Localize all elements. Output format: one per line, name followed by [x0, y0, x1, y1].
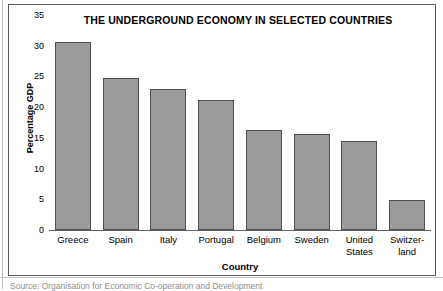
y-axis-tick-label: 35 — [22, 11, 44, 20]
x-axis-category-label: Belgium — [240, 234, 288, 246]
x-axis-title: Country — [49, 261, 431, 272]
page-edge-rule-left — [2, 0, 3, 289]
x-axis-category-label-line: United — [336, 234, 384, 246]
x-axis-category-label-line: Spain — [97, 234, 145, 246]
x-axis-category-label-line: Greece — [49, 234, 97, 246]
x-axis-category-label-line: Sweden — [288, 234, 336, 246]
bar-slot — [389, 15, 425, 230]
bar-slot — [103, 15, 139, 230]
x-axis-category-label-line: States — [336, 246, 384, 258]
y-axis-tick-label: 15 — [22, 133, 44, 142]
bar-slot — [55, 15, 91, 230]
y-axis-tick-label: 20 — [22, 103, 44, 112]
x-axis-category-label: Switzer-land — [383, 234, 431, 257]
y-axis-tick-label: 5 — [22, 195, 44, 204]
y-axis-tick-label: 25 — [22, 72, 44, 81]
chart-frame: THE UNDERGROUND ECONOMY IN SELECTED COUN… — [8, 4, 436, 276]
x-axis-category-label-line: land — [383, 246, 431, 258]
bar-slot — [150, 15, 186, 230]
bar[interactable] — [246, 130, 282, 230]
source-caption: Source: Organisation for Economic Co-ope… — [10, 281, 262, 291]
bar[interactable] — [150, 89, 186, 230]
x-axis-category-label-line: Italy — [145, 234, 193, 246]
x-axis-category-label-line: Belgium — [240, 234, 288, 246]
y-axis-tick-label: 0 — [22, 226, 44, 235]
x-axis-category-label: Greece — [49, 234, 97, 246]
bar[interactable] — [198, 100, 234, 230]
bar[interactable] — [55, 42, 91, 230]
x-axis-category-label: Sweden — [288, 234, 336, 246]
bar-slot — [246, 15, 282, 230]
bar[interactable] — [294, 134, 330, 230]
bar[interactable] — [341, 141, 377, 230]
y-axis-tick-label: 30 — [22, 41, 44, 50]
page-edge-rule-bottom — [0, 277, 443, 278]
plot-area: 05101520253035 — [49, 15, 431, 231]
bar-series — [49, 15, 431, 230]
x-axis-category-label: Italy — [145, 234, 193, 246]
bar[interactable] — [103, 78, 139, 230]
y-axis-title: Percentage GDP — [25, 73, 35, 163]
bar[interactable] — [389, 200, 425, 230]
x-axis-category-label-line: Portugal — [192, 234, 240, 246]
bar-slot — [294, 15, 330, 230]
y-axis-tick-label: 10 — [22, 164, 44, 173]
x-axis-category-label: Portugal — [192, 234, 240, 246]
x-axis-category-label: Spain — [97, 234, 145, 246]
bar-slot — [198, 15, 234, 230]
x-axis-baseline — [49, 230, 431, 231]
x-axis-category-label-line: Switzer- — [383, 234, 431, 246]
x-axis-category-label: UnitedStates — [336, 234, 384, 257]
bar-slot — [341, 15, 377, 230]
